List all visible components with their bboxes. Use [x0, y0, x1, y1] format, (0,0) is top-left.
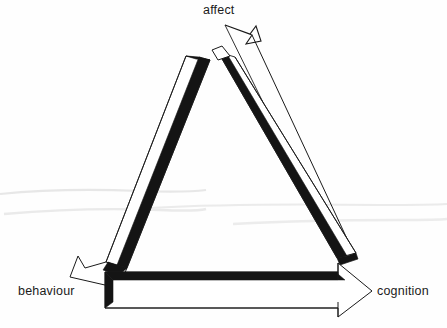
node-label-cognition: cognition: [377, 284, 429, 298]
abc-triangle-diagram: [0, 0, 447, 328]
arrow-bottom-top-face: [105, 272, 338, 280]
node-label-behaviour: behaviour: [18, 284, 75, 298]
node-label-affect: affect: [203, 3, 235, 17]
